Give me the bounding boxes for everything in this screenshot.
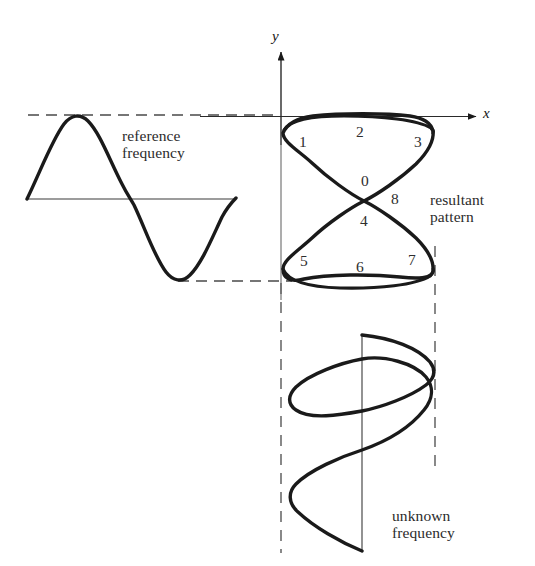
lissajous-figure-diagram: y x reference frequency resultant patter… — [0, 0, 535, 566]
x-axis-label: x — [483, 105, 490, 122]
pattern-point-label-5: 5 — [300, 252, 308, 269]
coordinate-axes — [200, 52, 476, 300]
resultant-pattern-caption: resultant pattern — [430, 191, 484, 226]
unknown-caption-line-2: frequency — [392, 524, 455, 541]
pattern-point-label-0: 0 — [361, 172, 369, 189]
guide-lines — [28, 115, 435, 553]
unknown-frequency-caption: unknown frequency — [392, 507, 455, 542]
pattern-point-label-7: 7 — [408, 251, 416, 268]
resultant-caption-line-1: resultant — [430, 191, 484, 208]
reference-caption-line-2: frequency — [122, 144, 185, 161]
pattern-point-label-8: 8 — [391, 190, 399, 207]
resultant-caption-line-2: pattern — [430, 208, 484, 225]
reference-frequency-caption: reference frequency — [122, 127, 185, 162]
unknown-caption-line-1: unknown — [392, 507, 455, 524]
reference-caption-line-1: reference — [122, 127, 185, 144]
y-axis-label: y — [272, 28, 279, 45]
pattern-point-label-3: 3 — [414, 133, 422, 150]
pattern-point-label-6: 6 — [356, 258, 364, 275]
diagram-canvas — [0, 0, 535, 566]
pattern-point-label-4: 4 — [360, 212, 368, 229]
pattern-point-label-2: 2 — [356, 123, 364, 140]
pattern-point-label-1: 1 — [299, 133, 307, 150]
